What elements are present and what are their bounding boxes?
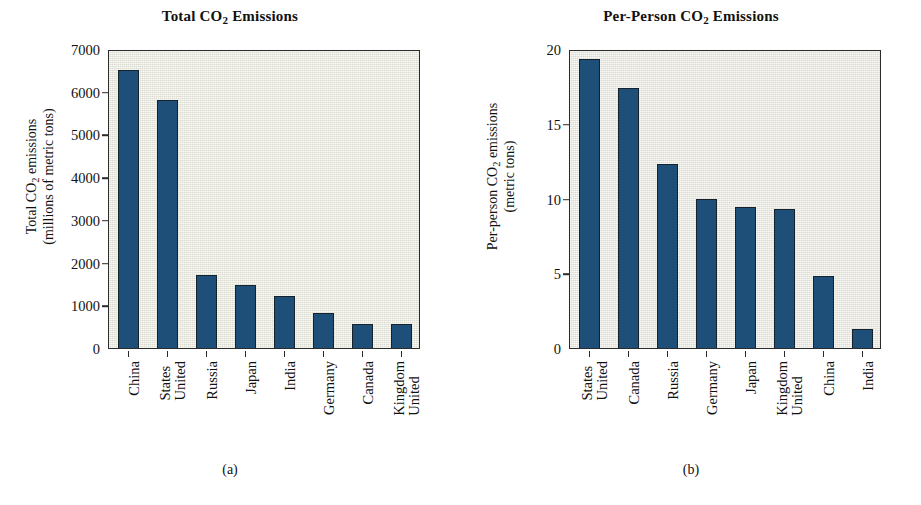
x-tick-label-line: Russia [205, 361, 220, 400]
x-tick-label-line: Kingdom [392, 361, 407, 416]
x-tick-label-line: Russia [666, 361, 681, 400]
chart-title-b-suffix: Emissions [709, 8, 779, 24]
x-tick-label-line: Japan [744, 361, 759, 394]
y-tick-label: 5 [554, 267, 561, 282]
x-tick-label-line: States [580, 361, 595, 400]
x-tick-mark [167, 351, 169, 357]
bar [774, 209, 796, 348]
y-tick-label: 2000 [71, 256, 100, 271]
bar-series-b [570, 51, 880, 348]
x-tick-label: UnitedStates [158, 361, 188, 400]
x-tick-mark [284, 351, 286, 357]
x-tick-mark [823, 351, 825, 357]
x-tick-mark [128, 351, 130, 357]
y-axis-b: 05101520 [461, 50, 569, 349]
y-tick-label: 0 [93, 342, 100, 357]
bar-series-a [109, 51, 419, 348]
x-tick-label-line: United [407, 361, 422, 416]
x-tick-label-line: Germany [322, 361, 337, 415]
y-tick-label: 1000 [71, 299, 100, 314]
x-tick-mark [245, 351, 247, 357]
y-tick-label: 20 [547, 43, 562, 58]
x-tick-label-line: India [861, 361, 876, 391]
bar [274, 296, 296, 348]
x-tick-mark [745, 351, 747, 357]
x-tick-label: Japan [244, 361, 259, 394]
x-tick-mark [362, 351, 364, 357]
bar [735, 207, 757, 348]
chart-title-b-prefix: Per-Person CO [603, 8, 703, 24]
bar [391, 324, 413, 348]
x-tick-label: Russia [205, 361, 220, 400]
x-tick-mark [862, 351, 864, 357]
x-tick-label-line: Japan [244, 361, 259, 394]
y-tick-label: 15 [547, 118, 562, 133]
plot-area-b [569, 50, 881, 349]
x-tick-mark [706, 351, 708, 357]
x-tick-label: Canada [627, 361, 642, 404]
chart-panel-a: Total CO2 Emissions Total CO2 emissions … [0, 0, 460, 505]
x-tick-mark [628, 351, 630, 357]
chart-title-a-suffix: Emissions [228, 8, 298, 24]
x-tick-mark [206, 351, 208, 357]
plot-area-a [108, 50, 420, 349]
y-axis-a: 01000200030004000500060007000 [0, 50, 108, 349]
x-tick-label: Russia [666, 361, 681, 400]
y-tick-label: 3000 [71, 214, 100, 229]
x-tick-label: China [127, 361, 142, 396]
x-tick-label: Japan [744, 361, 759, 394]
x-tick-label: China [822, 361, 837, 396]
chart-title-a-prefix: Total CO [162, 8, 223, 24]
x-tick-label: Germany [322, 361, 337, 415]
bar [313, 313, 335, 348]
panel-caption-b: (b) [461, 462, 921, 478]
y-tick-label: 4000 [71, 171, 100, 186]
x-tick-label-line: Germany [705, 361, 720, 415]
y-tick-label: 10 [547, 192, 562, 207]
y-tick-label: 6000 [71, 85, 100, 100]
x-tick-mark [667, 351, 669, 357]
bar [352, 324, 374, 348]
x-tick-label: India [861, 361, 876, 391]
chart-title-a-subscript: 2 [222, 14, 228, 26]
bar [235, 285, 257, 348]
x-tick-label-line: United [790, 361, 805, 416]
bar [696, 199, 718, 349]
figure-container: Total CO2 Emissions Total CO2 emissions … [0, 0, 921, 505]
x-tick-label-line: Canada [627, 361, 642, 404]
bar [813, 276, 835, 348]
chart-panel-b: Per-Person CO2 Emissions Per-person CO2 … [461, 0, 921, 505]
x-tick-label-line: China [127, 361, 142, 396]
y-tick-label: 0 [554, 342, 561, 357]
bar [118, 70, 140, 348]
bar [618, 88, 640, 348]
x-tick-label: UnitedKingdom [775, 361, 805, 416]
chart-title-a: Total CO2 Emissions [0, 8, 460, 25]
chart-title-b-subscript: 2 [703, 14, 709, 26]
x-tick-mark [401, 351, 403, 357]
x-tick-label: UnitedKingdom [392, 361, 422, 416]
x-tick-mark [589, 351, 591, 357]
x-tick-label: Canada [361, 361, 376, 404]
x-axis-b: UnitedStatesCanadaRussiaGermanyJapanUnit… [569, 352, 881, 472]
x-tick-label: UnitedStates [580, 361, 610, 400]
x-tick-label-line: China [822, 361, 837, 396]
x-tick-mark [323, 351, 325, 357]
bar [852, 329, 874, 348]
bar [196, 275, 218, 348]
bar [157, 100, 179, 348]
x-axis-a: ChinaUnitedStatesRussiaJapanIndiaGermany… [108, 352, 420, 472]
bar [579, 59, 601, 348]
x-tick-label-line: United [595, 361, 610, 400]
y-tick-label: 7000 [71, 43, 100, 58]
x-tick-label-line: Kingdom [775, 361, 790, 416]
x-tick-label-line: States [158, 361, 173, 400]
chart-title-b: Per-Person CO2 Emissions [461, 8, 921, 25]
x-tick-label-line: United [173, 361, 188, 400]
x-tick-label-line: Canada [361, 361, 376, 404]
x-tick-label-line: India [283, 361, 298, 391]
x-tick-mark [784, 351, 786, 357]
y-tick-label: 5000 [71, 128, 100, 143]
x-tick-label: India [283, 361, 298, 391]
bar [657, 164, 679, 348]
